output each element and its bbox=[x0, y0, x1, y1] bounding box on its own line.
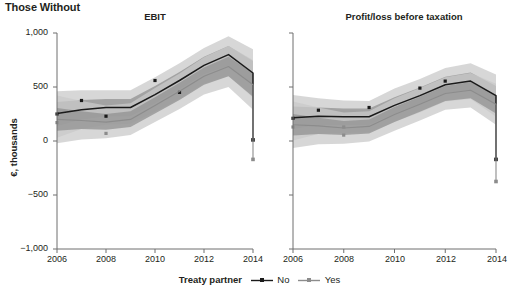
data-point-marker bbox=[342, 134, 345, 137]
legend-title: Treaty partner bbox=[179, 274, 242, 285]
data-point-marker bbox=[418, 87, 421, 90]
panel-profit-loss bbox=[291, 63, 497, 204]
legend-entry-no[interactable]: No bbox=[251, 274, 290, 285]
data-point-marker bbox=[80, 99, 83, 102]
legend-label-yes: Yes bbox=[325, 274, 341, 285]
chart-figure: Those Without EBIT Profit/loss before ta… bbox=[0, 0, 519, 291]
legend: Treaty partner No Yes bbox=[0, 274, 519, 285]
data-point-marker bbox=[104, 115, 107, 118]
legend-entry-yes[interactable]: Yes bbox=[298, 274, 340, 285]
data-point-marker bbox=[251, 158, 255, 162]
data-point-marker bbox=[342, 125, 345, 128]
data-point-marker bbox=[317, 109, 320, 112]
data-point-marker bbox=[104, 132, 107, 135]
plot-canvas bbox=[0, 0, 519, 291]
legend-marker-no-icon bbox=[251, 276, 273, 285]
panel-ebit bbox=[55, 36, 254, 182]
legend-marker-yes-icon bbox=[298, 276, 320, 285]
data-point-marker bbox=[494, 180, 498, 184]
data-point-marker bbox=[444, 80, 447, 83]
legend-label-no: No bbox=[277, 274, 289, 285]
data-point-marker bbox=[368, 106, 371, 109]
data-point-marker bbox=[153, 79, 156, 82]
